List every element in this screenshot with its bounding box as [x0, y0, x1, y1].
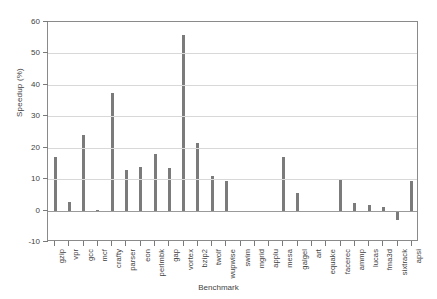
- x-tick-mark: [125, 241, 126, 246]
- bar-eon: [139, 167, 142, 211]
- x-tick-mark: [140, 241, 141, 246]
- x-tick-mark: [411, 241, 412, 246]
- x-tick-label-galgel: galgel: [300, 249, 309, 270]
- bar-gcc: [82, 135, 85, 210]
- x-tick-mark: [168, 241, 169, 246]
- x-tick-mark: [297, 241, 298, 246]
- x-axis-title: Benchmark: [0, 283, 437, 292]
- y-tick-mark: [43, 84, 48, 85]
- y-tick-mark: [43, 21, 48, 22]
- speedup-bar-chart: Speedup (%) 6050403020100-10 gzipvprgccm…: [0, 0, 437, 299]
- x-tick-label-perlmbk: perlmbk: [157, 249, 166, 276]
- x-tick-label-bzip2: bzip2: [200, 249, 209, 267]
- x-tick-mark: [111, 241, 112, 246]
- x-tick-label-wupwise: wupwise: [228, 249, 237, 278]
- x-tick-mark: [97, 241, 98, 246]
- gridline: [48, 116, 417, 117]
- x-tick-mark: [83, 241, 84, 246]
- bar-perlmbk: [154, 154, 157, 211]
- x-tick-mark: [340, 241, 341, 246]
- x-tick-mark: [54, 241, 55, 246]
- x-tick-label-vpr: vpr: [71, 249, 80, 260]
- zero-baseline: [48, 211, 417, 212]
- y-tick-label: 20: [0, 142, 47, 151]
- plot-area: [47, 21, 418, 241]
- x-tick-mark: [282, 241, 283, 246]
- x-tick-label-eon: eon: [143, 249, 152, 262]
- x-tick-label-gzip: gzip: [57, 249, 66, 263]
- bar-crafty: [111, 93, 114, 211]
- bar-bzip2: [196, 143, 199, 211]
- x-tick-mark: [311, 241, 312, 246]
- gridline: [48, 85, 417, 86]
- x-tick-label-fma3d: fma3d: [385, 249, 394, 270]
- gridline: [48, 179, 417, 180]
- bar-parser: [125, 170, 128, 211]
- x-tick-mark: [397, 241, 398, 246]
- x-tick-label-mcf: mcf: [100, 249, 109, 261]
- x-tick-label-applu: applu: [271, 249, 280, 268]
- x-tick-mark: [382, 241, 383, 246]
- x-tick-label-parser: parser: [128, 249, 137, 271]
- bar-ammp: [353, 203, 356, 211]
- x-tick-mark: [68, 241, 69, 246]
- y-tick-mark: [43, 52, 48, 53]
- x-tick-label-crafty: crafty: [114, 249, 123, 268]
- x-tick-mark: [325, 241, 326, 246]
- x-tick-mark: [197, 241, 198, 246]
- y-tick-label: 50: [0, 48, 47, 57]
- bar-twolf: [211, 176, 214, 211]
- y-tick-label: -10: [0, 237, 47, 246]
- y-tick-mark: [43, 241, 48, 242]
- gridline: [48, 53, 417, 54]
- x-tick-mark: [154, 241, 155, 246]
- y-tick-label: 0: [0, 205, 47, 214]
- x-tick-label-mesa: mesa: [285, 249, 294, 268]
- x-tick-label-swim: swim: [243, 249, 252, 266]
- bar-facerec: [339, 180, 342, 211]
- bar-gzip: [54, 157, 57, 210]
- x-tick-label-facerec: facerec: [343, 249, 352, 274]
- gridline: [48, 148, 417, 149]
- y-tick-label: 60: [0, 17, 47, 26]
- x-tick-mark: [368, 241, 369, 246]
- x-tick-label-vortex: vortex: [186, 249, 195, 270]
- x-tick-mark: [211, 241, 212, 246]
- y-tick-label: 10: [0, 174, 47, 183]
- y-tick-label: 30: [0, 111, 47, 120]
- bars-layer: [48, 22, 417, 240]
- x-tick-label-mgrid: mgrid: [257, 249, 266, 268]
- x-tick-mark: [254, 241, 255, 246]
- x-tick-label-lucas: lucas: [371, 249, 380, 267]
- x-tick-mark: [183, 241, 184, 246]
- x-tick-label-art: art: [314, 249, 323, 258]
- x-tick-label-gcc: gcc: [86, 249, 95, 261]
- bar-galgel: [296, 193, 299, 210]
- x-tick-mark: [225, 241, 226, 246]
- x-tick-mark: [354, 241, 355, 246]
- x-tick-label-ammp: ammp: [357, 249, 366, 270]
- y-tick-mark: [43, 178, 48, 179]
- x-tick-label-equake: equake: [328, 249, 337, 274]
- x-tick-mark: [240, 241, 241, 246]
- bar-vpr: [68, 202, 71, 210]
- x-tick-label-apsi: apsi: [414, 249, 423, 263]
- bar-vortex: [182, 35, 185, 211]
- bar-wupwise: [225, 181, 228, 211]
- x-tick-label-twolf: twolf: [214, 249, 223, 265]
- x-tick-mark: [268, 241, 269, 246]
- y-tick-mark: [43, 147, 48, 148]
- bar-mesa: [282, 157, 285, 210]
- y-tick-mark: [43, 115, 48, 116]
- y-tick-mark: [43, 210, 48, 211]
- bar-apsi: [410, 181, 413, 211]
- bar-sixtrack: [396, 211, 399, 220]
- x-tick-label-gap: gap: [171, 249, 180, 262]
- y-tick-label: 40: [0, 79, 47, 88]
- x-tick-label-sixtrack: sixtrack: [400, 249, 409, 275]
- bar-gap: [168, 168, 171, 210]
